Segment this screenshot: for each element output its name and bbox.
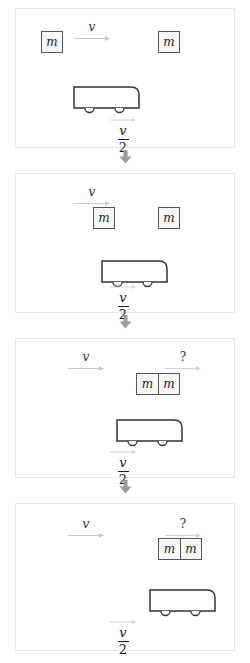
fraction-denominator: 2 bbox=[119, 643, 127, 657]
truck-speed-label-panel-2: v 2 bbox=[110, 284, 136, 321]
unknown-velocity-symbol: ? bbox=[180, 351, 186, 363]
truck-panel-1 bbox=[73, 86, 145, 116]
mass-block-label: m bbox=[163, 378, 174, 390]
truck-speed-label-panel-4: v 2 bbox=[110, 619, 136, 656]
joined-mass-blocks-panel-4: m m bbox=[158, 538, 202, 560]
mass-block-left-panel-1: m bbox=[41, 31, 63, 53]
mass-block-label: m bbox=[164, 543, 175, 555]
fraction-denominator: 2 bbox=[119, 473, 127, 487]
velocity-arrow-right-icon bbox=[74, 200, 110, 207]
mass-block-label: m bbox=[163, 212, 174, 224]
velocity-arrow-right-icon bbox=[74, 35, 110, 42]
truck-speed-label-panel-1: v 2 bbox=[110, 117, 136, 154]
unknown-velocity-arrow-right-icon bbox=[165, 365, 201, 372]
fraction-v-over-2: v 2 bbox=[118, 124, 129, 154]
unknown-velocity-label-panel-4: ? bbox=[165, 518, 201, 539]
velocity-label-v-panel-2: v bbox=[74, 186, 110, 207]
fraction-v-over-2: v 2 bbox=[118, 456, 129, 486]
velocity-symbol: v bbox=[89, 186, 96, 198]
joined-block-cell-left: m bbox=[159, 539, 180, 559]
joined-mass-blocks-panel-3: m m bbox=[136, 373, 180, 395]
mass-block-left-panel-2: m bbox=[93, 207, 115, 229]
fraction-numerator: v bbox=[119, 456, 126, 470]
joined-block-cell-right: m bbox=[180, 539, 201, 559]
velocity-arrow-right-icon bbox=[68, 365, 104, 372]
mass-block-right-panel-2: m bbox=[158, 207, 180, 229]
joined-block-cell-right: m bbox=[158, 374, 179, 394]
mass-block-label: m bbox=[46, 36, 57, 48]
velocity-arrow-right-icon bbox=[68, 532, 104, 539]
velocity-label-v-panel-3: v bbox=[68, 351, 104, 372]
velocity-label-v-panel-1: v bbox=[74, 21, 110, 42]
mass-block-label: m bbox=[142, 378, 153, 390]
truck-speed-label-panel-3: v 2 bbox=[110, 449, 136, 486]
fraction-numerator: v bbox=[119, 291, 126, 305]
joined-block-cell-left: m bbox=[137, 374, 158, 394]
velocity-symbol: v bbox=[89, 21, 96, 33]
truck-panel-3 bbox=[116, 419, 188, 449]
mass-block-label: m bbox=[185, 543, 196, 555]
velocity-label-v-panel-4: v bbox=[68, 518, 104, 539]
mass-block-label: m bbox=[163, 36, 174, 48]
mass-block-right-panel-1: m bbox=[158, 31, 180, 53]
fraction-v-over-2: v 2 bbox=[118, 291, 129, 321]
fraction-v-over-2: v 2 bbox=[118, 626, 129, 656]
unknown-velocity-label-panel-3: ? bbox=[165, 351, 201, 372]
velocity-symbol: v bbox=[83, 351, 90, 363]
mass-block-label: m bbox=[98, 212, 109, 224]
panel-3: v ? m m bbox=[15, 338, 235, 478]
unknown-velocity-symbol: ? bbox=[180, 518, 186, 530]
panel-2: v m m bbox=[15, 173, 235, 313]
figure-stage: v m m bbox=[0, 0, 250, 663]
truck-panel-4 bbox=[149, 589, 221, 619]
fraction-denominator: 2 bbox=[119, 141, 127, 155]
fraction-numerator: v bbox=[119, 124, 126, 138]
fraction-denominator: 2 bbox=[119, 308, 127, 322]
fraction-numerator: v bbox=[119, 626, 126, 640]
panel-1: v m m bbox=[15, 8, 235, 148]
panel-4: v ? m m bbox=[15, 503, 235, 651]
velocity-symbol: v bbox=[83, 518, 90, 530]
